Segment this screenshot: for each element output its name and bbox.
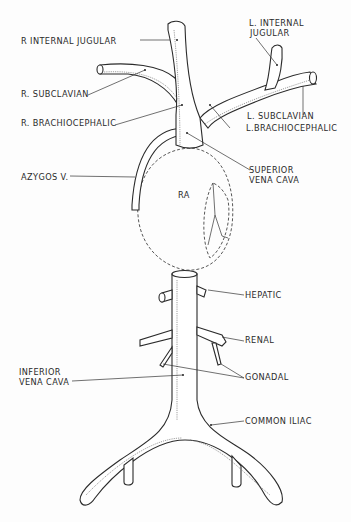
leader-hepatic bbox=[208, 290, 244, 295]
label-r-brachiocephalic: R. BRACHIOCEPHALIC bbox=[21, 118, 116, 128]
label-renal: RENAL bbox=[245, 335, 274, 345]
left-gonadal-vein bbox=[212, 343, 221, 365]
label-r-internal-jugular: R INTERNAL JUGULAR bbox=[21, 36, 117, 46]
leader-azygos bbox=[70, 176, 135, 177]
label-l-brachiocephalic: L.BRACHIOCEPHALIC bbox=[246, 123, 337, 133]
right-gonadal-vein bbox=[160, 347, 172, 367]
leader-svc bbox=[187, 133, 250, 170]
diagram-drawing bbox=[0, 0, 351, 522]
label-gonadal: GONADAL bbox=[245, 372, 289, 382]
label-common-iliac: COMMON ILIAC bbox=[245, 416, 312, 426]
right-subclavian-cut bbox=[97, 65, 103, 74]
valve-leaflets bbox=[208, 183, 228, 245]
left-hepatic-vein bbox=[197, 286, 206, 297]
right-atrium-outline bbox=[138, 148, 233, 270]
inferior-vena-cava bbox=[80, 274, 282, 505]
ivc-opening bbox=[172, 271, 197, 278]
hepatic-cut bbox=[159, 293, 165, 302]
right-renal-vein bbox=[140, 330, 172, 346]
label-svc-line2: VENA CAVA bbox=[249, 175, 299, 185]
label-l-internal-jugular-line1: L. INTERNAL bbox=[249, 18, 304, 28]
leader-common-iliac bbox=[211, 421, 244, 425]
label-ivc-line1: INFERIOR bbox=[19, 367, 61, 377]
label-svc-line1: SUPERIOR bbox=[249, 165, 294, 175]
leader-ivc bbox=[72, 375, 183, 381]
tricuspid-outline bbox=[204, 183, 229, 258]
label-l-subclavian: L. SUBCLAVIAN bbox=[247, 111, 314, 121]
label-hepatic: HEPATIC bbox=[245, 290, 282, 300]
venous-system-diagram: R INTERNAL JUGULAR L. INTERNAL JUGULAR R… bbox=[0, 0, 351, 522]
label-r-subclavian: R. SUBCLAVIAN bbox=[21, 89, 89, 99]
label-ivc-line2: VENA CAVA bbox=[19, 377, 69, 387]
leader-r-brachiocephalic bbox=[115, 105, 182, 125]
dot-r-internal-jugular bbox=[176, 39, 178, 41]
left-subclavian-cut bbox=[310, 72, 317, 84]
label-ra: RA bbox=[178, 190, 190, 200]
label-azygos: AZYGOS V. bbox=[21, 172, 69, 182]
label-l-internal-jugular-line2: JUGULAR bbox=[250, 28, 290, 38]
